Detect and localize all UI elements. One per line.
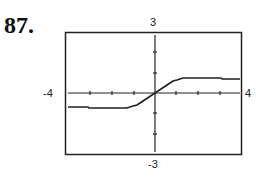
graph-window	[0, 0, 256, 177]
